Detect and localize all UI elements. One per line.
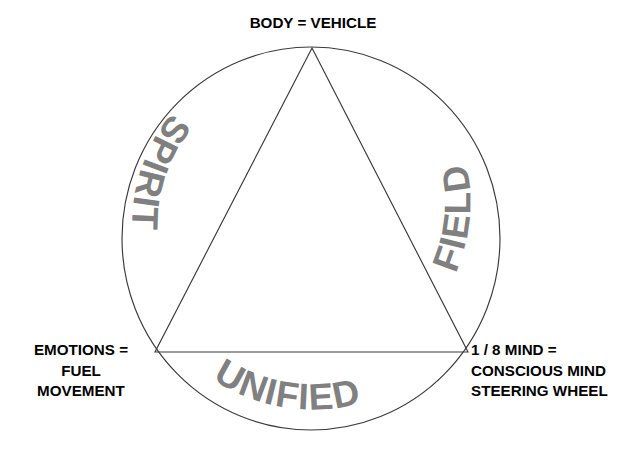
arc-label-unified-text: UNIFIED xyxy=(208,351,364,418)
vertex-label-emotions-line1: EMOTIONS = xyxy=(8,340,154,361)
vertex-label-emotions: EMOTIONS = FUEL MOVEMENT xyxy=(8,340,154,402)
arc-label-unified: UNIFIED xyxy=(208,351,364,418)
vertex-label-body: BODY = VEHICLE xyxy=(0,13,626,34)
inscribed-triangle xyxy=(155,48,468,352)
diagram-canvas: SPIRIT FIELD UNIFIED BODY = VEHICLE EMOT… xyxy=(0,0,626,456)
vertex-label-emotions-line2: FUEL xyxy=(8,361,154,382)
vertex-label-mind: 1 / 8 MIND = CONSCIOUS MIND STEERING WHE… xyxy=(471,340,623,402)
vertex-label-emotions-line3: MOVEMENT xyxy=(8,381,154,402)
arc-label-field-text: FIELD xyxy=(425,162,479,277)
vertex-label-mind-line2: CONSCIOUS MIND xyxy=(471,361,623,382)
vertex-label-mind-line1: 1 / 8 MIND = xyxy=(471,340,623,361)
arc-label-field: FIELD xyxy=(425,162,479,277)
vertex-label-body-line1: BODY = VEHICLE xyxy=(0,13,626,34)
arc-label-spirit: SPIRIT xyxy=(124,108,199,232)
arc-label-spirit-text: SPIRIT xyxy=(124,108,199,232)
vertex-label-mind-line3: STEERING WHEEL xyxy=(471,381,623,402)
